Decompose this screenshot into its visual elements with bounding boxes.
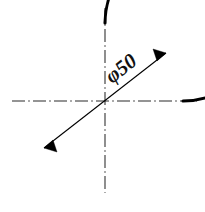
diameter-label-group: φ50 [100, 48, 141, 88]
drawing-surface: φ50 [0, 0, 205, 212]
arrowhead-lower-left-icon [44, 140, 57, 152]
technical-drawing-canvas: φ50 [0, 0, 205, 212]
arrowhead-upper-right-icon [153, 49, 166, 61]
diameter-label: φ50 [100, 48, 141, 88]
